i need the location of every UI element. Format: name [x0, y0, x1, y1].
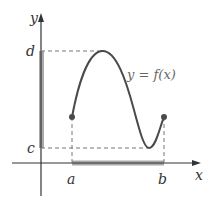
b-label: b — [158, 171, 167, 187]
function-curve — [72, 51, 164, 148]
c-label: c — [27, 140, 35, 156]
y-axis-arrow-icon — [38, 13, 44, 22]
endpoint-b — [161, 114, 167, 120]
endpoint-a — [69, 114, 75, 120]
x-axis-arrow-icon — [192, 160, 201, 166]
a-label: a — [67, 171, 75, 187]
d-label: d — [26, 43, 35, 59]
x-axis-label: x — [195, 167, 203, 183]
y-axis-label: y — [29, 10, 39, 26]
curve-label: y = f(x) — [126, 67, 176, 82]
function-range-diagram: y x d c a b y = f(x) — [0, 0, 213, 208]
